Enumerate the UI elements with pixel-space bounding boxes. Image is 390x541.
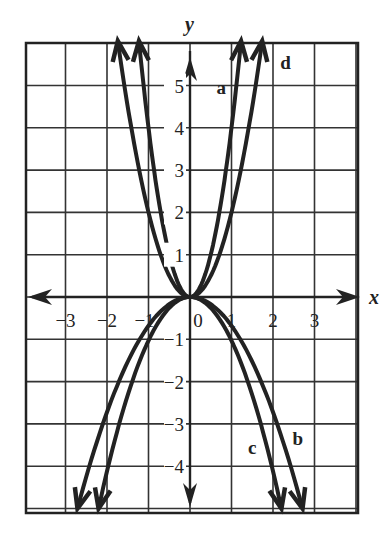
x-axis-label: x bbox=[368, 286, 379, 308]
curve-label-b: b bbox=[293, 428, 304, 449]
axes bbox=[28, 51, 360, 507]
x-tick-label: 3 bbox=[310, 310, 320, 331]
y-tick-label: −3 bbox=[164, 414, 184, 435]
y-tick-label: 3 bbox=[175, 160, 185, 181]
y-tick-label: −4 bbox=[164, 456, 185, 477]
x-tick-label: −3 bbox=[55, 310, 75, 331]
curve-label-d: d bbox=[280, 52, 291, 73]
y-tick-label: 2 bbox=[175, 202, 185, 223]
x-tick-label: 1 bbox=[227, 310, 237, 331]
x-tick-label: 2 bbox=[268, 310, 278, 331]
y-tick-label: 1 bbox=[175, 245, 185, 266]
curve-label-c: c bbox=[248, 437, 256, 458]
x-tick-label: 0 bbox=[193, 310, 203, 331]
x-tick-label: −1 bbox=[134, 310, 154, 331]
y-tick-label: −2 bbox=[164, 372, 184, 393]
y-axis-label: y bbox=[183, 13, 194, 36]
y-tick-label: 4 bbox=[175, 118, 185, 139]
y-tick-label: 5 bbox=[175, 76, 185, 97]
grid-lines bbox=[26, 43, 358, 513]
tick-labels: −3−2−1012354321−1−2−3−4xyadcb bbox=[55, 13, 379, 478]
y-tick-label: −1 bbox=[164, 329, 184, 350]
parabola-graph: −3−2−1012354321−1−2−3−4xyadcb bbox=[0, 0, 390, 541]
x-tick-label: −2 bbox=[97, 310, 117, 331]
curve-label-a: a bbox=[216, 77, 226, 98]
